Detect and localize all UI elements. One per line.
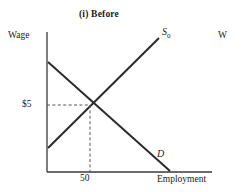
chart-plot-svg <box>0 0 242 192</box>
economics-supply-demand-figure: (i) Before Wage Employment $5 50 S0 D W <box>0 0 242 192</box>
x-axis-label: Employment <box>157 174 206 184</box>
adjacent-panel-clipped-label: W <box>218 30 242 40</box>
y-axis-tick-label-wage: $5 <box>22 99 32 109</box>
demand-curve-label: D <box>157 148 164 159</box>
supply-curve <box>48 38 159 148</box>
demand-curve-label-text: D <box>157 148 164 159</box>
supply-curve-label: S0 <box>162 26 171 40</box>
supply-curve-label-subscript: 0 <box>167 32 171 40</box>
demand-curve <box>48 62 170 171</box>
x-axis-tick-label-employment: 50 <box>80 173 90 183</box>
y-axis-label: Wage <box>8 30 29 40</box>
